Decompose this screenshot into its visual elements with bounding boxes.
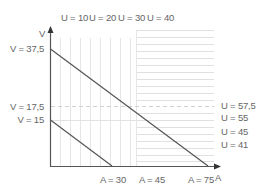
upper-line [51,49,209,166]
x-axis-label: A [215,173,221,183]
label-u-10: U = 10 [61,13,88,23]
label-u-40: U = 40 [147,13,174,23]
label-a-75: A = 75 [188,175,214,185]
label-u-20: U = 20 [89,13,116,23]
label-v-15: V = 15 [17,115,44,125]
label-v-37-5: V = 37,5 [10,44,44,54]
label-a-30: A = 30 [100,175,126,185]
lower-line [51,120,113,166]
label-u-45: U = 45 [221,127,248,137]
label-u-55: U = 55 [221,113,248,123]
label-u-30: U = 30 [118,13,145,23]
label-u-57-5: U = 57,5 [221,101,256,111]
y-axis-label: V [39,29,45,39]
vertical-grid [61,30,137,166]
y-axis-arrow-icon [48,26,54,33]
label-u-41: U = 41 [221,140,248,150]
x-axis-arrow-icon [214,164,221,170]
label-v-17-5: V = 17,5 [10,102,44,112]
label-a-45: A = 45 [139,175,165,185]
